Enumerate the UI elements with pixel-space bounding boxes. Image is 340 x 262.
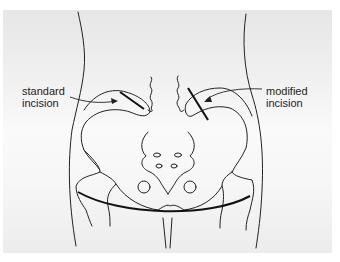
sacrum-right bbox=[168, 132, 194, 194]
label-line-2: incision bbox=[22, 97, 65, 109]
leg-left bbox=[163, 218, 166, 248]
modified-incision-label: modified incision bbox=[266, 85, 308, 109]
label-line-1: modified bbox=[266, 85, 308, 97]
label-line-1: standard bbox=[22, 85, 65, 97]
sacral-foramen bbox=[154, 153, 161, 157]
pelvic-arch bbox=[116, 184, 222, 210]
obturator-foramen-right bbox=[184, 181, 196, 193]
sacral-foramen bbox=[175, 153, 182, 157]
pelvis-diagram bbox=[0, 0, 340, 262]
standard-arrowhead-icon bbox=[111, 98, 118, 104]
obturator-foramen-left bbox=[138, 181, 150, 193]
pfannenstiel-line bbox=[78, 192, 250, 211]
sacrum-left bbox=[142, 132, 168, 194]
sacral-foramen bbox=[156, 164, 162, 168]
leg-right bbox=[170, 218, 172, 248]
left-femur-inner bbox=[100, 172, 116, 226]
left-femur-top bbox=[76, 150, 100, 226]
sacral-foramen bbox=[171, 164, 177, 168]
right-femur-inner bbox=[220, 172, 232, 228]
spine-squiggle-right bbox=[177, 76, 184, 112]
modified-arrow bbox=[206, 89, 262, 100]
standard-incision-label: standard incision bbox=[22, 85, 65, 109]
right-femur-top bbox=[232, 172, 254, 230]
label-line-2: incision bbox=[266, 97, 308, 109]
